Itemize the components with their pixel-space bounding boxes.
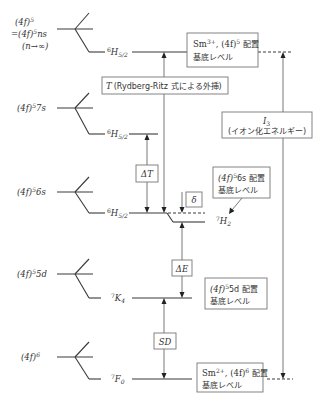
term-6H52-limit: 6H5/2 [107, 46, 128, 59]
pointer-arrow-6s-box [229, 198, 242, 214]
term-7H2: 7H2 [216, 215, 231, 228]
term-7K4: 7K4 [111, 292, 125, 305]
box-sm3-ground-level: Sm3+, (4f)5 配置 基底レベル [187, 33, 259, 67]
fork-4f5-6s [57, 177, 93, 213]
config-label-4f5-6s: (4f)56s [17, 186, 46, 198]
box-rydberg-ritz: T(Rydberg-Ritz 式による外挿) [102, 77, 228, 94]
config-label-limit: (4f)5 =(4f)5ns (n→∞) [11, 16, 48, 52]
box-4f5-5d-ground-level: (4f)55d 配置 基底レベル [205, 278, 267, 309]
fork-4f6 [57, 342, 93, 379]
config-label-4f6: (4f)6 [21, 351, 40, 363]
svg-text:(4f)55d 配置: (4f)55d 配置 [210, 283, 258, 295]
term-6H52-7s: 6H5/2 [107, 128, 128, 141]
svg-text:(4f)56s 配置: (4f)56s 配置 [218, 172, 265, 184]
fork-limit [57, 13, 93, 52]
svg-text:SD: SD [159, 337, 172, 347]
svg-text:Sm2+, (4f)6 配置: Sm2+, (4f)6 配置 [202, 367, 268, 379]
svg-text:δ: δ [191, 195, 196, 205]
config-label-4f5-5d: (4f)55d [17, 268, 47, 280]
box-delta-T: ΔT [136, 165, 158, 182]
svg-text:ΔT: ΔT [140, 169, 154, 179]
fork-4f5-5d [57, 259, 93, 298]
box-4f5-6s-ground-level: (4f)56s 配置 基底レベル [213, 167, 270, 198]
term-6H52-6s: 6H5/2 [107, 207, 128, 220]
level-6H52-6s [89, 213, 205, 222]
box-SD: SD [154, 333, 176, 349]
svg-text:ΔE: ΔE [175, 264, 189, 274]
box-delta: δ [186, 192, 202, 207]
svg-text:基底レベル: 基底レベル [210, 296, 250, 306]
svg-text:T(Rydberg-Ritz 式による外挿): T(Rydberg-Ritz 式による外挿) [106, 81, 222, 91]
svg-text:(n→∞): (n→∞) [22, 41, 48, 51]
svg-text:(4f)5: (4f)5 [15, 16, 34, 28]
energy-level-diagram: (4f)5 =(4f)5ns (n→∞) (4f)57s (4f)56s (4f… [0, 0, 321, 405]
svg-text:基底レベル: 基底レベル [202, 380, 242, 390]
box-sm2-ground-level: Sm2+, (4f)6 配置 基底レベル [197, 363, 268, 392]
arrow-I3 [281, 52, 286, 379]
svg-text:基底レベル: 基底レベル [218, 185, 258, 195]
arrow-delta [180, 192, 185, 213]
svg-text:Sm3+, (4f)5 配置: Sm3+, (4f)5 配置 [193, 38, 259, 50]
box-ionization-energy: I3 (イオン化エネルギー) [222, 112, 312, 138]
config-label-4f5-7s: (4f)57s [17, 102, 46, 114]
term-7F0: 7F0 [111, 373, 125, 386]
svg-text:=(4f)5ns: =(4f)5ns [11, 28, 48, 40]
svg-text:(イオン化エネルギー): (イオン化エネルギー) [228, 126, 306, 136]
arrow-T [162, 52, 167, 213]
fork-4f5-7s [57, 93, 93, 134]
svg-text:基底レベル: 基底レベル [193, 52, 233, 62]
box-delta-E: ΔE [172, 260, 192, 276]
